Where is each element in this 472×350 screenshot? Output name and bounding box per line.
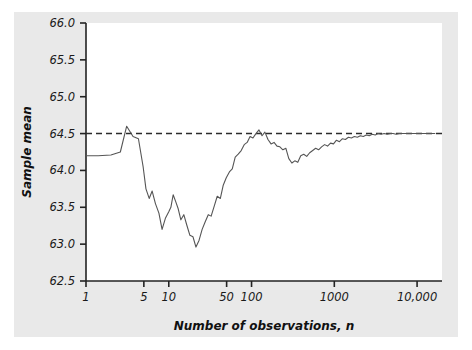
- y-tick-label: 63.5: [49, 200, 75, 214]
- x-tick-label: 100: [241, 290, 263, 304]
- plot-area-background: [86, 23, 442, 281]
- y-tick-label: 65.0: [49, 90, 75, 104]
- y-tick-label: 64.5: [49, 127, 75, 141]
- x-tick-label: 1: [82, 290, 89, 304]
- y-axis-ticks: 62.563.063.564.064.565.065.566.0: [49, 16, 86, 288]
- y-tick-label: 66.0: [49, 16, 75, 30]
- y-tick-label: 63.0: [49, 237, 75, 251]
- x-tick-label: 50: [219, 290, 234, 304]
- x-tick-label: 5: [140, 290, 147, 304]
- figure-root: 62.563.063.564.064.565.065.566.0 1510501…: [0, 0, 472, 350]
- y-axis-title: Sample mean: [20, 106, 34, 198]
- x-axis-title: Number of observations, n: [174, 319, 355, 333]
- running-mean-line-chart: 62.563.063.564.064.565.065.566.0 1510501…: [0, 0, 472, 350]
- y-tick-label: 62.5: [49, 274, 75, 288]
- x-tick-label: 1000: [320, 290, 349, 304]
- x-axis-ticks: 151050100100010,000: [82, 281, 437, 304]
- y-tick-label: 64.0: [49, 163, 75, 177]
- x-tick-label: 10,000: [397, 290, 437, 304]
- x-tick-label: 10: [161, 290, 176, 304]
- y-tick-label: 65.5: [49, 53, 75, 67]
